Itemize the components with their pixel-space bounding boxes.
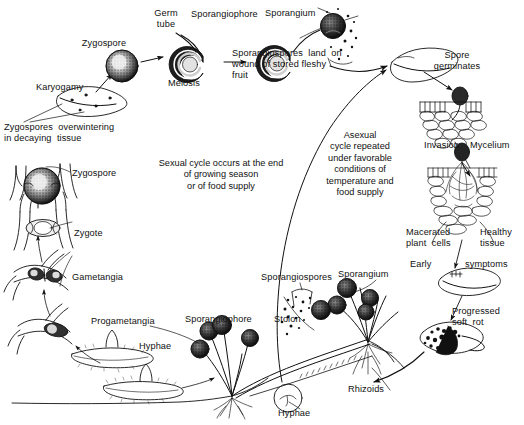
label-sporangium-top: Sporangium [265,8,316,19]
label-mycelium: Mycelium [470,140,510,151]
zygospore-with-suspensors [10,164,77,204]
rhizopus-colony [12,279,404,420]
label-rhizoids: Rhizoids [348,384,384,395]
label-zygospore-left: Zygospore [72,168,116,179]
label-progressed-soft-rot: Progressed soft rot [452,306,500,328]
label-germ-tube: Germ tube [144,8,188,30]
label-sporangiophore-bottom: Sporangiophore [185,314,252,325]
sporangium-top [321,14,346,39]
label-zygospores-overwintering: Zygospores overwintering in decaying tis… [4,122,114,144]
label-progametangia: Progametangia [91,316,155,327]
label-stolon: Stolon [274,314,301,325]
zygospore-mature [106,50,138,82]
label-hyphae-left: Hyphae [139,341,171,352]
spore-germinating-on-tissue [420,87,487,148]
label-healthy-tissue: Healthy tissue [480,227,512,249]
label-sporangiospores-land: Sporangiospores land on wound of stored … [232,48,342,81]
label-meiosis: Meiosis [168,78,200,89]
label-spore-germinates: Spore germinates [408,50,506,72]
gametangia [4,250,68,300]
note-sexual-cycle: Sexual cycle occurs at the end of growin… [148,158,294,192]
label-sporangiophore-top: Sporangiophore [191,9,258,20]
germinating-zygospore-meiosis [169,33,203,83]
label-symptoms: symptoms [465,259,508,270]
label-macerated-plant-cells: Macerated plant cells [406,227,451,249]
label-zygospore-top: Zygospore [68,38,140,49]
label-sporangiospores-bottom: Sporangiospores [261,272,332,283]
label-hyphae-bottom: Hyphae [278,408,310,419]
life-cycle-diagram: Zygospore Karyogamy Zygospores overwinte… [0,0,524,425]
label-invasion: Invasion [424,140,459,151]
note-asexual-cycle: Asexual cycle repeated under favorable c… [312,130,408,198]
sporangium-head [312,279,379,321]
label-gametangia: Gametangia [72,272,123,283]
hyphae-plain [103,364,183,404]
label-karyogamy: Karyogamy [36,82,83,93]
label-zygote: Zygote [74,228,103,239]
progametangia [8,304,72,354]
mycelium-in-tissue [428,143,497,234]
rhizoids [214,398,252,419]
label-sporangium-bottom: Sporangium [338,269,389,280]
fruit-early-symptoms [438,268,500,296]
label-early: Early [410,259,431,270]
